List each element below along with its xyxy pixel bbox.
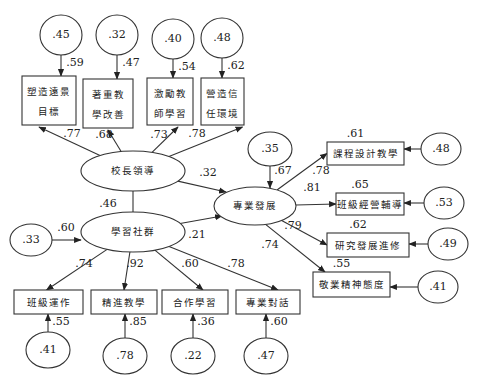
error-value: .22 [184,349,202,362]
loading-coef: .77 [63,127,81,140]
indicator-label: 精進教學 [102,297,146,308]
loading-coef: .78 [188,127,206,140]
indicator-label: 研究發展進修 [335,240,401,251]
indicator-box [83,79,133,128]
error-value: .41 [429,280,447,293]
loading-coef: .92 [126,257,144,270]
indicator-label: 學改善 [92,109,125,120]
loading-path [296,204,336,205]
r-squared: .62 [349,218,367,231]
error-value: .48 [432,142,450,155]
indicator-label: 任環境 [206,108,239,119]
indicator-label: 專業對話 [246,297,290,308]
error-path-coef: .85 [129,315,147,328]
loading-coef: .68 [95,128,113,141]
latent-profdev-label: 專業發展 [233,200,277,211]
structural-path [178,181,226,192]
error-value: .45 [52,28,70,41]
indicator-label: 課程設計教學 [333,148,399,159]
indicator-label: 班級經營輔導 [337,199,403,210]
r-squared: .55 [333,257,351,270]
loading-coef: .79 [284,219,302,232]
error-value: .49 [439,237,457,250]
indicator-label: 師學習 [154,108,187,119]
structural-path [180,216,222,224]
error-path-coef: .62 [227,59,245,72]
error-value: .40 [164,32,182,45]
error-value: .47 [257,349,275,362]
error-path-coef: .36 [197,315,215,328]
r-squared: .61 [347,127,365,140]
sem-path-diagram: 校長領導學習社群專業發展塑造遠景目標.45.59著重教學改善.32.47激勵教師… [0,0,483,388]
error-value: .53 [435,196,453,209]
structural-coef: .32 [199,166,217,179]
r-squared: .65 [351,178,369,191]
latent-leadership-label: 校長領導 [111,165,155,176]
latent-community-label: 學習社群 [111,226,155,237]
loading-coef: .73 [150,128,168,141]
error-path-coef: .60 [270,315,288,328]
structural-coef: .46 [99,197,117,210]
loading-coef: .74 [75,257,93,270]
error-value: .32 [108,28,126,41]
loading-coef: .60 [181,257,199,270]
error-path-coef: .54 [178,60,196,73]
loading-coef: .81 [303,181,321,194]
error-value: .78 [116,349,134,362]
error-path-coef: .47 [122,56,140,69]
error-path-coef: .59 [66,56,84,69]
residual-coef: .67 [274,164,292,177]
indicator-label: 班級運作 [27,297,71,308]
loading-coef: .78 [227,257,245,270]
indicator-label: 目標 [38,106,60,117]
error-path-coef: .55 [52,315,70,328]
indicator-label: 合作學習 [173,297,217,308]
indicator-label: 營造信 [206,88,239,99]
error-value: .48 [213,31,231,44]
error-value: .41 [39,343,57,356]
structural-coef: .21 [188,228,206,241]
indicator-label: 敬業精神態度 [319,279,385,290]
indicator-label: 激勵教 [154,88,187,99]
indicator-box [22,76,76,125]
residual-coef: .60 [57,221,75,234]
indicator-label: 塑造遠景 [27,86,71,97]
residual-value: .35 [261,142,279,155]
indicator-label: 著重教 [92,89,125,100]
loading-coef: .74 [261,238,279,251]
loading-coef: .78 [312,164,330,177]
residual-value: .33 [22,233,40,246]
